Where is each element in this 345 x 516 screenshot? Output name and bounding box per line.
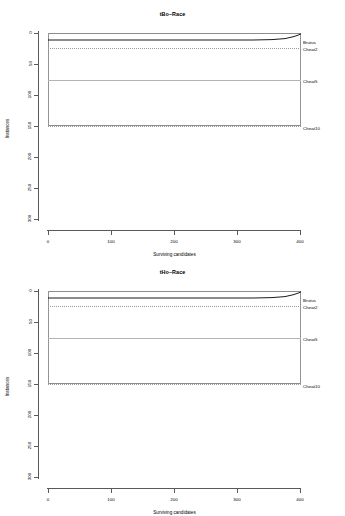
y-axis-line <box>38 31 39 221</box>
y-tick-label: 100 <box>23 92 37 97</box>
x-tick <box>237 489 238 493</box>
x-tick-label: 100 <box>101 497 121 502</box>
y-tick-label: 100 <box>23 350 37 355</box>
y-tick-label: 300 <box>23 216 37 221</box>
chart-title: tBo–Race <box>0 11 345 17</box>
x-tick-label: 200 <box>164 239 184 244</box>
x-tick-label: 0 <box>38 497 58 502</box>
chart-title: tHo–Race <box>0 269 345 275</box>
x-tick <box>48 489 49 493</box>
plot-area: 0 50 100 150 200 250 300 Instances 0 100… <box>48 291 301 477</box>
y-tick-label: 0 <box>23 288 37 293</box>
y-axis-label: Instances <box>0 384 38 389</box>
x-tick <box>111 231 112 235</box>
x-tick <box>300 489 301 493</box>
y-tick-label: 200 <box>23 412 37 417</box>
x-tick-label: 300 <box>227 239 247 244</box>
x-tick-label: 0 <box>38 239 58 244</box>
x-tick <box>174 489 175 493</box>
series-line-cheat10 <box>48 384 301 385</box>
x-tick <box>174 231 175 235</box>
series-label-cheat10: Cheat10 <box>303 384 320 389</box>
y-tick-label: 50 <box>23 319 37 324</box>
series-label-brutus: Brutus <box>303 298 316 303</box>
x-tick-label: 300 <box>227 497 247 502</box>
x-tick <box>111 489 112 493</box>
chart-panel-tbo-race: tBo–Race 0 50 100 150 200 250 300 Instan… <box>0 0 345 258</box>
x-tick-label: 400 <box>290 239 310 244</box>
y-tick-label: 250 <box>23 443 37 448</box>
series-label-cheat5: Cheat5 <box>303 337 317 342</box>
x-tick <box>48 231 49 235</box>
figure-page: tBo–Race 0 50 100 150 200 250 300 Instan… <box>0 0 345 516</box>
y-tick-label: 0 <box>23 30 37 35</box>
x-tick-label: 100 <box>101 239 121 244</box>
x-axis-label: Surviving candidates <box>48 252 301 257</box>
series-line-cheat2 <box>48 48 301 49</box>
y-axis-line <box>38 289 39 479</box>
series-label-cheat10: Cheat10 <box>303 126 320 131</box>
series-label-brutus: Brutus <box>303 40 316 45</box>
series-line-cheat10 <box>48 126 301 127</box>
series-line-cheat5 <box>48 80 301 81</box>
y-tick-label: 50 <box>23 61 37 66</box>
series-label-cheat5: Cheat5 <box>303 79 317 84</box>
y-tick-label: 250 <box>23 185 37 190</box>
x-tick <box>300 231 301 235</box>
x-tick <box>237 231 238 235</box>
x-tick-label: 200 <box>164 497 184 502</box>
y-axis-label: Instances <box>0 126 38 131</box>
series-line-cheat5 <box>48 338 301 339</box>
series-label-cheat2: Cheat2 <box>303 47 317 52</box>
x-axis-label: Surviving candidates <box>48 510 301 515</box>
y-tick-label: 300 <box>23 474 37 479</box>
chart-panel-tho-race: tHo–Race 0 50 100 150 200 250 300 Instan… <box>0 258 345 516</box>
x-tick-label: 400 <box>290 497 310 502</box>
series-line-cheat2 <box>48 306 301 307</box>
series-label-cheat2: Cheat2 <box>303 305 317 310</box>
plot-area: 0 50 100 150 200 250 300 Instances 0 100… <box>48 33 301 219</box>
y-tick-label: 200 <box>23 154 37 159</box>
